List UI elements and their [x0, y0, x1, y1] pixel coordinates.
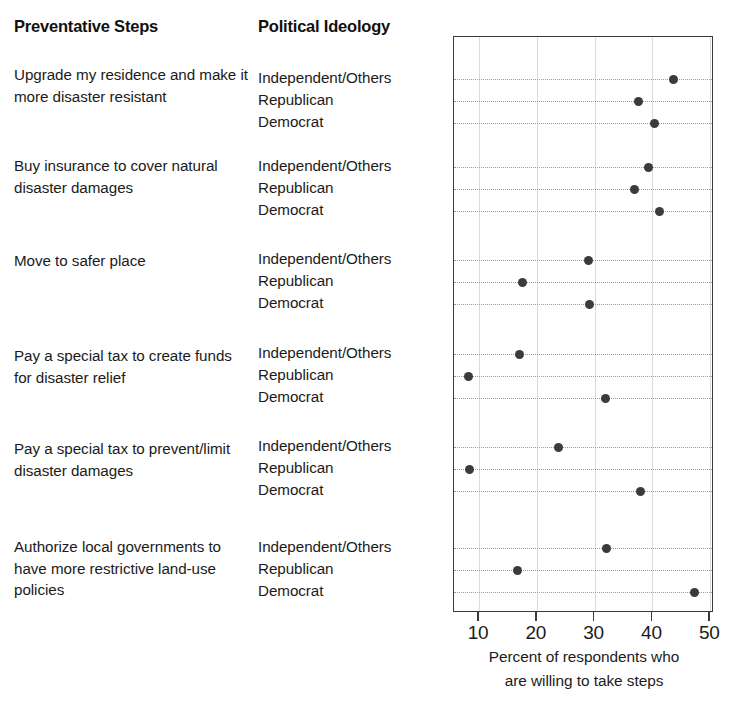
data-point-dot: [636, 487, 645, 496]
row-dotted-line: [454, 354, 712, 355]
x-axis-title-line2: are willing to take steps: [505, 672, 664, 689]
row-dotted-line: [454, 376, 712, 377]
row-dotted-line: [454, 548, 712, 549]
data-point-dot: [465, 465, 474, 474]
preventative-step-label: Move to safer place: [14, 250, 252, 272]
political-ideology-label: Independent/Others: [258, 69, 448, 87]
data-point-dot: [655, 207, 664, 216]
data-point-dot: [464, 372, 473, 381]
data-point-dot: [515, 350, 524, 359]
political-ideology-label: Independent/Others: [258, 157, 448, 175]
x-axis-tick: [535, 612, 537, 621]
column-header-political-ideology: Political Ideology: [258, 17, 390, 36]
political-ideology-label: Republican: [258, 560, 448, 578]
data-point-dot: [601, 394, 610, 403]
row-dotted-line: [454, 282, 712, 283]
x-axis-tick: [593, 612, 595, 621]
preventative-step-label: Pay a special tax to prevent/limit disas…: [14, 438, 252, 481]
x-axis-title: Percent of respondents who are willing t…: [453, 645, 715, 693]
political-ideology-label: Republican: [258, 272, 448, 290]
figure-root: Preventative Steps Political Ideology Up…: [0, 0, 729, 708]
scatter-plot-panel: [453, 36, 713, 612]
row-dotted-line: [454, 592, 712, 593]
row-dotted-line: [454, 447, 712, 448]
x-axis-tick-label: 50: [699, 622, 720, 644]
data-point-dot: [554, 443, 563, 452]
row-dotted-line: [454, 123, 712, 124]
row-dotted-line: [454, 101, 712, 102]
political-ideology-label: Republican: [258, 366, 448, 384]
data-point-dot: [650, 119, 659, 128]
row-dotted-line: [454, 167, 712, 168]
data-point-dot: [513, 566, 522, 575]
row-dotted-line: [454, 211, 712, 212]
political-ideology-label: Independent/Others: [258, 437, 448, 455]
data-point-dot: [602, 544, 611, 553]
data-point-dot: [634, 97, 643, 106]
data-point-dot: [585, 300, 594, 309]
x-axis-tick-label: 40: [641, 622, 662, 644]
political-ideology-label: Republican: [258, 179, 448, 197]
data-point-dot: [669, 75, 678, 84]
political-ideology-label: Republican: [258, 91, 448, 109]
x-axis-title-line1: Percent of respondents who: [489, 648, 679, 665]
preventative-step-label: Pay a special tax to create funds for di…: [14, 345, 252, 388]
political-ideology-label: Democrat: [258, 294, 448, 312]
political-ideology-label: Democrat: [258, 582, 448, 600]
preventative-step-label: Upgrade my residence and make it more di…: [14, 64, 252, 107]
x-axis-tick: [708, 612, 710, 621]
row-dotted-line: [454, 189, 712, 190]
political-ideology-label: Republican: [258, 459, 448, 477]
preventative-step-label: Authorize local governments to have more…: [14, 536, 252, 601]
row-dotted-line: [454, 398, 712, 399]
data-point-dot: [690, 588, 699, 597]
data-point-dot: [584, 256, 593, 265]
column-header-preventative-steps: Preventative Steps: [14, 17, 158, 36]
row-dotted-line: [454, 304, 712, 305]
political-ideology-label: Democrat: [258, 113, 448, 131]
data-point-dot: [518, 278, 527, 287]
political-ideology-label: Independent/Others: [258, 250, 448, 268]
row-dotted-line: [454, 570, 712, 571]
political-ideology-label: Independent/Others: [258, 538, 448, 556]
x-axis-tick: [477, 612, 479, 621]
data-point-dot: [630, 185, 639, 194]
data-point-dot: [644, 163, 653, 172]
political-ideology-label: Democrat: [258, 388, 448, 406]
row-dotted-line: [454, 469, 712, 470]
x-axis-tick-label: 30: [583, 622, 604, 644]
preventative-step-label: Buy insurance to cover natural disaster …: [14, 155, 252, 198]
political-ideology-label: Democrat: [258, 201, 448, 219]
x-axis-tick-label: 20: [526, 622, 547, 644]
political-ideology-label: Independent/Others: [258, 344, 448, 362]
x-axis-tick-label: 10: [468, 622, 489, 644]
row-dotted-line: [454, 491, 712, 492]
political-ideology-label: Democrat: [258, 481, 448, 499]
x-axis-tick: [651, 612, 653, 621]
